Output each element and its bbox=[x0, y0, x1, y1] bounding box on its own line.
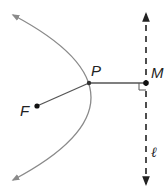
point-m bbox=[143, 80, 149, 86]
point-f bbox=[34, 103, 39, 108]
parabola-curve bbox=[13, 15, 91, 180]
label-p: P bbox=[91, 62, 101, 79]
parabola-diagram: F P M ℓ bbox=[0, 0, 168, 190]
label-f: F bbox=[20, 102, 30, 119]
point-p bbox=[87, 81, 91, 85]
label-directrix: ℓ bbox=[151, 144, 157, 160]
segment-fp bbox=[37, 83, 89, 106]
label-m: M bbox=[151, 64, 164, 81]
